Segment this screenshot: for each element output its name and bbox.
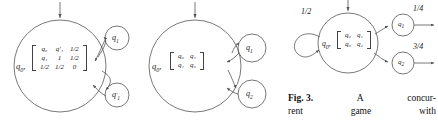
diagram-1-cell-1-1: 1 [52, 54, 67, 63]
diagram-1-matrix-row-0: q₀ q′₁ 1/2 [37, 45, 82, 54]
diagram-1-main-state-label: q0, [16, 62, 25, 73]
diagram-2-edge-to-succ-0 [232, 44, 237, 53]
diagram-3-succ-label-1: q2 [398, 59, 404, 68]
diagram-2-succ-label-0: q1 [246, 44, 253, 54]
diagram-1-matrix-row-2: 1/2 1/2 0 [37, 63, 82, 72]
diagram-3-succ-label-0: q1 [398, 21, 404, 30]
diagram-1-matrix-table: q₀ q′₁ 1/2 q₁ 1 1/2 1/2 1/2 0 [37, 45, 82, 71]
diagram-1-matrix: q₀ q′₁ 1/2 q₁ 1 1/2 1/2 1/2 0 [32, 45, 87, 71]
diagram-1-edge-from-succ-1 [93, 85, 106, 96]
caption-figure-label: Fig. 3. [288, 92, 313, 105]
caption-line-1: Fig. 3. A concur- [288, 92, 436, 105]
diagram-1-cell-0-1: q′₁ [52, 45, 67, 54]
diagram-1-matrix-bracket-right [83, 45, 87, 71]
diagram-1-cell-1-0: q₁ [37, 54, 52, 63]
caption-word-concur: concur- [407, 92, 436, 105]
diagram-3-matrix-bracket-right [367, 31, 371, 49]
diagram-3-matrix-bracket-left [337, 31, 341, 49]
diagram-3-edge-to-succ-1 [374, 53, 388, 62]
diagram-3-edge-to-succ-0 [375, 26, 388, 34]
diagram-1-cell-0-0: q₀ [37, 45, 52, 54]
diagram-2-cell-1-0: q₁ [175, 61, 187, 70]
diagram-2-cell-0-1: q₁ [187, 52, 199, 61]
diagram-1-cell-2-2: 0 [67, 63, 82, 72]
diagram-3-cell-1-0: q₀ [342, 40, 354, 49]
diagram-3-self-loop-label: 1/2 [301, 8, 311, 16]
diagram-3-cell-1-1: q₂ [354, 40, 366, 49]
diagram-2-matrix-table: q₀ q₁ q₁ q₂ [175, 52, 199, 70]
caption-line-2: rent game with [288, 105, 436, 118]
caption-word-with: with [419, 105, 436, 118]
figure-caption: Fig. 3. A concur- rent game with [288, 92, 436, 118]
diagram-3-matrix-row-1: q₀ q₂ [342, 40, 366, 49]
diagram-2-matrix: q₀ q₁ q₁ q₂ [170, 52, 204, 70]
diagram-1-cell-2-0: 1/2 [37, 63, 52, 72]
diagram-1-cell-1-2: 1/2 [67, 54, 82, 63]
diagram-1-matrix-row-1: q₁ 1 1/2 [37, 54, 82, 63]
diagram-3-main-state-label: q0, [322, 40, 331, 50]
caption-word-rent: rent [288, 105, 303, 118]
diagram-2-matrix-row-1: q₁ q₂ [175, 61, 199, 70]
diagram-2-edge-to-succ-1 [228, 70, 236, 88]
diagram-3-edge-label-1: 3/4 [413, 43, 423, 51]
diagram-3-cell-0-1: q₁ [354, 31, 366, 40]
diagram-2-main-state-label: q0, [152, 62, 161, 73]
caption-word-a: A [357, 92, 364, 105]
diagram-1-succ-label-0: q1 [112, 34, 119, 44]
diagram-1-succ-label-1: q′1 [112, 91, 120, 101]
diagram-3-matrix: q₀ q₁ q₀ q₂ [337, 31, 371, 49]
diagram-3-cell-0-0: q₀ [342, 31, 354, 40]
diagram-2-succ-label-1: q2 [246, 90, 253, 100]
diagram-2-matrix-row-0: q₀ q₁ [175, 52, 199, 61]
figure-container: q0, q₀ q′₁ 1/2 q₁ 1 1/2 1/2 1/2 0 q1 q [0, 0, 438, 125]
diagram-3-edge-label-0: 1/4 [413, 5, 423, 13]
caption-word-game: game [351, 105, 372, 118]
diagram-3-matrix-table: q₀ q₁ q₀ q₂ [342, 31, 366, 49]
diagram-3-self-loop [294, 34, 320, 57]
diagram-2-matrix-bracket-right [200, 52, 204, 70]
diagram-2-cell-0-0: q₀ [175, 52, 187, 61]
diagram-1-cell-2-1: 1/2 [52, 63, 67, 72]
diagram-2-edge-from-succ-0 [227, 53, 239, 62]
diagram-3-matrix-row-0: q₀ q₁ [342, 31, 366, 40]
diagram-1-matrix-bracket-left [32, 45, 36, 71]
diagram-1-cell-0-2: 1/2 [67, 45, 82, 54]
diagram-2-matrix-bracket-left [170, 52, 174, 70]
diagram-2-cell-1-1: q₂ [187, 61, 199, 70]
